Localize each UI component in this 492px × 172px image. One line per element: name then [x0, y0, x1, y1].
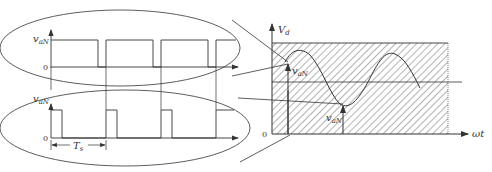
period-guides	[51, 67, 216, 96]
vd-label: Vd	[278, 24, 290, 37]
period-label: Ts	[73, 140, 84, 153]
top-y-label: vaN	[33, 33, 50, 46]
right-origin-label: 0	[262, 130, 267, 139]
bottom-pulse-train	[51, 110, 234, 138]
bottom-y-label: vaN	[33, 93, 50, 106]
top-zoom-ellipse	[0, 10, 240, 86]
pwm-diagram: vaN 0 vaN 0 Ts	[0, 0, 492, 172]
bottom-origin-label: 0	[43, 134, 48, 143]
reference-waveform-panel: Vd ωt 0 vaN vaN	[262, 24, 485, 139]
top-pulse-train	[51, 40, 236, 67]
top-origin-label: 0	[43, 63, 48, 72]
omega-t-label: ωt	[472, 128, 485, 139]
hatched-band	[272, 43, 448, 134]
bottom-pwm-panel: vaN 0 Ts	[0, 90, 250, 166]
top-pwm-panel: vaN 0	[0, 10, 240, 86]
